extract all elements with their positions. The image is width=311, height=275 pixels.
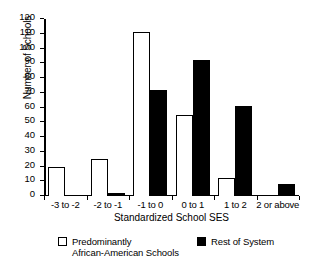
y-axis-tick-label: 120 bbox=[19, 12, 35, 22]
x-axis-tick-labels: -3 to -2-2 to -1-1 to 00 to 11 to 22 or … bbox=[44, 199, 299, 213]
y-axis-tick-label: 30 bbox=[24, 145, 35, 155]
bar bbox=[193, 60, 210, 196]
bar bbox=[235, 106, 252, 196]
y-axis-tick-label: 40 bbox=[24, 130, 35, 140]
legend-swatch-black-icon bbox=[197, 237, 206, 246]
y-axis-tick-label: 110 bbox=[20, 27, 35, 37]
y-axis-tick-label: 60 bbox=[24, 101, 35, 111]
y-axis-tick-label: 20 bbox=[24, 160, 35, 170]
bar bbox=[108, 193, 125, 196]
y-axis-tick-label: 100 bbox=[19, 42, 35, 52]
plot-area: 0102030405060708090100110120 bbox=[44, 19, 299, 196]
legend-entry: Predominantly African-American Schools bbox=[58, 236, 179, 258]
bar bbox=[150, 90, 167, 196]
chart-legend: Predominantly African-American SchoolsRe… bbox=[0, 236, 311, 272]
y-axis-tick-label: 90 bbox=[24, 56, 35, 66]
y-axis-tick-label: 80 bbox=[24, 71, 35, 81]
bar bbox=[91, 159, 108, 196]
legend-label: Rest of System bbox=[211, 236, 274, 247]
bar-chart: Number of Schools 0102030405060708090100… bbox=[0, 0, 311, 275]
bar bbox=[176, 115, 193, 196]
x-axis-title: Standardized School SES bbox=[44, 212, 299, 224]
bars-layer bbox=[44, 19, 299, 196]
legend-swatch-white-icon bbox=[58, 237, 67, 246]
legend-entry: Rest of System bbox=[197, 236, 274, 247]
y-axis-tick-label: 50 bbox=[24, 115, 35, 125]
bar bbox=[218, 178, 235, 196]
y-axis-tick-label: 70 bbox=[24, 86, 35, 96]
x-axis-tick-label: 2 or above bbox=[251, 199, 306, 211]
legend-label: Predominantly African-American Schools bbox=[72, 236, 179, 258]
bar bbox=[133, 32, 150, 196]
y-axis-tick-label: 10 bbox=[24, 174, 35, 184]
y-axis-tick-label: 0 bbox=[30, 189, 35, 199]
bar bbox=[48, 167, 65, 197]
bar bbox=[278, 184, 295, 196]
